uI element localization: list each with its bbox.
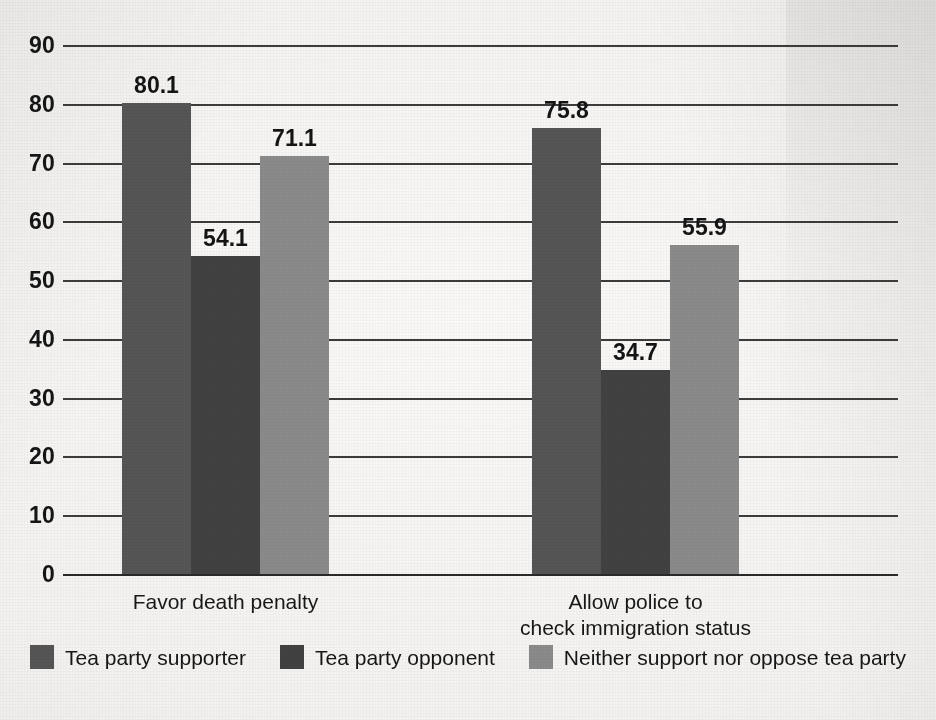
legend-swatch-icon-2 [280,645,304,669]
gridline-90 [63,45,898,47]
legend-label-1: Tea party supporter [65,647,246,668]
y-tick-label-90: 90 [9,34,55,57]
x-axis-label-group1: Favor death penalty [26,589,426,615]
bar-value-label-group1-series3: 71.1 [242,127,347,150]
y-tick-label-70: 70 [9,152,55,175]
y-tick-label-30: 30 [9,387,55,410]
legend-label-2: Tea party opponent [315,647,495,668]
bar-group2-series2 [601,370,670,574]
bar-group1-series2 [191,256,260,574]
x-axis-label-group2: Allow police to check immigration status [436,589,836,641]
bar-value-label-group1-series1: 80.1 [104,74,209,97]
y-tick-label-80: 80 [9,93,55,116]
bar-value-label-group2-series1: 75.8 [514,99,619,122]
legend-label-3: Neither support nor oppose tea party [564,647,906,668]
bar-group2-series3 [670,245,739,574]
bar-chart-figure: 9080706050403020100 80.154.171.175.834.7… [0,0,936,720]
legend-item-3: Neither support nor oppose tea party [529,645,906,669]
bar-group1-series3 [260,156,329,574]
plot-area: 80.154.171.175.834.755.9 [63,45,898,574]
y-tick-label-40: 40 [9,328,55,351]
legend-item-1: Tea party supporter [30,645,246,669]
legend-swatch-icon-1 [30,645,54,669]
gridline-0 [63,574,898,576]
chart-legend: Tea party supporterTea party opponentNei… [0,645,936,669]
y-tick-label-20: 20 [9,445,55,468]
y-tick-label-0: 0 [9,563,55,586]
y-axis-tick-labels: 9080706050403020100 [0,45,55,574]
legend-swatch-icon-3 [529,645,553,669]
legend-item-2: Tea party opponent [280,645,495,669]
bar-group1-series1 [122,103,191,574]
y-tick-label-10: 10 [9,504,55,527]
bar-value-label-group2-series3: 55.9 [652,216,757,239]
y-tick-label-60: 60 [9,210,55,233]
y-tick-label-50: 50 [9,269,55,292]
